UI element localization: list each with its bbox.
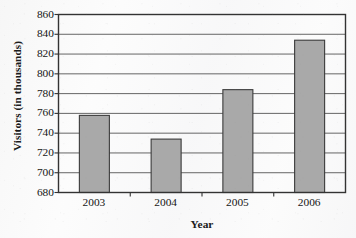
bars [79,40,324,192]
x-tick-label: 2003 [59,196,129,208]
bar [295,40,325,192]
x-axis-tick-labels: 2003200420052006 [58,196,346,214]
x-tick-label: 2004 [131,196,201,208]
x-tick-label: 2005 [202,196,272,208]
x-axis-title: Year [58,218,346,230]
bar [79,115,109,192]
bar [151,139,181,192]
bar-chart-figure: Visitors (in thousands) 6807007207407607… [0,0,356,238]
bar [223,90,253,193]
x-tick-label: 2006 [274,196,344,208]
